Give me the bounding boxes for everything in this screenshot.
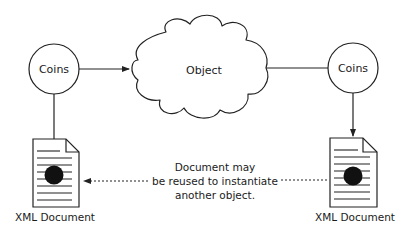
coins-right-label: Coins	[338, 62, 368, 75]
coins-left-label: Coins	[39, 63, 69, 76]
annotation-line-1: Document may	[152, 160, 278, 174]
doc-left-label: XML Document	[15, 211, 95, 223]
reuse-annotation: Document may be reused to instantiate an…	[152, 160, 278, 202]
doc-right-icon	[330, 138, 377, 207]
doc-left-icon	[33, 139, 79, 207]
annotation-line-2: be reused to instantiate	[152, 174, 278, 188]
object-label: Object	[186, 64, 222, 77]
annotation-line-3: another object.	[152, 188, 278, 202]
doc-right-label: XML Document	[315, 211, 395, 223]
